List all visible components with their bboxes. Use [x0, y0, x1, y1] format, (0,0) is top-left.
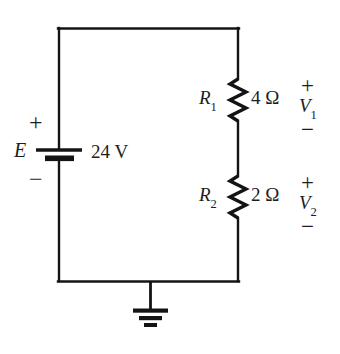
resistor-r2-label: R2 [199, 185, 217, 208]
resistor-r1-label: R1 [199, 88, 217, 111]
resistor-r1-symbol [230, 79, 246, 121]
v1-plus-sign: + [301, 74, 314, 97]
v2-label: V2 [299, 193, 317, 216]
v1-label-text: V [299, 95, 311, 116]
v1-minus-sign: − [301, 118, 314, 141]
source-label-e: E [14, 140, 26, 160]
ground-bar-3 [144, 323, 157, 327]
resistor-r2-label-subscript: 2 [211, 197, 217, 211]
battery-negative-plate [45, 156, 74, 162]
v2-plus-sign: + [301, 171, 314, 194]
resistor-r2-label-text: R [199, 184, 211, 205]
source-plus-sign: + [29, 110, 43, 134]
v2-minus-sign: − [301, 215, 314, 238]
resistor-r1-value: 4 Ω [251, 88, 279, 107]
resistor-r2-symbol [230, 176, 246, 218]
source-value: 24 V [91, 142, 128, 161]
ground-bar-2 [139, 316, 162, 320]
source-minus-sign: − [29, 167, 43, 191]
resistor-r1-label-text: R [199, 87, 211, 108]
ground-bar-1 [133, 309, 168, 313]
resistor-r2-value: 2 Ω [251, 185, 279, 204]
resistor-r1-label-subscript: 1 [211, 100, 217, 114]
schematic-svg [0, 0, 340, 354]
v2-label-text: V [299, 192, 311, 213]
circuit-diagram: + E − 24 V R1 4 Ω + V1 − R2 2 Ω + V2 − [0, 0, 340, 354]
v1-label: V1 [299, 96, 317, 119]
